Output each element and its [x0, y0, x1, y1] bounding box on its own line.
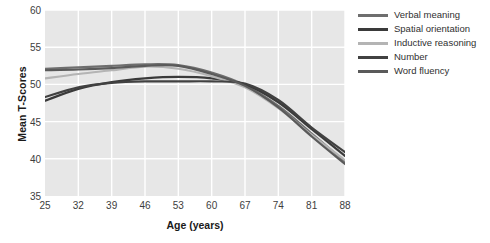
legend-color-swatch	[358, 14, 388, 17]
legend-item-label: Spatial orientation	[394, 22, 470, 36]
y-tick-label: 45	[1, 116, 41, 127]
legend-color-swatch	[358, 28, 388, 31]
legend-item[interactable]: Inductive reasoning	[358, 36, 490, 50]
series-line	[45, 81, 345, 152]
y-tick-label: 55	[1, 42, 41, 53]
x-tick-label: 88	[325, 200, 365, 211]
legend-item[interactable]: Number	[358, 50, 490, 64]
y-tick-label: 60	[1, 5, 41, 16]
legend-item[interactable]: Word fluency	[358, 64, 490, 78]
legend-item-label: Verbal meaning	[394, 8, 460, 22]
series-line	[45, 64, 345, 162]
series-line	[45, 65, 345, 164]
legend-item-label: Number	[394, 50, 428, 64]
y-tick-label: 50	[1, 79, 41, 90]
chart-legend: Verbal meaningSpatial orientationInducti…	[358, 8, 490, 78]
legend-item-label: Word fluency	[394, 64, 449, 78]
plot-area	[45, 10, 345, 196]
series-lines	[45, 10, 345, 196]
chart-root: Mean T-Scores 354045505560 2532394653606…	[0, 0, 490, 243]
x-axis-ticks: 25323946536067748188	[45, 200, 345, 216]
legend-item-label: Inductive reasoning	[394, 36, 476, 50]
legend-color-swatch	[358, 70, 388, 73]
legend-color-swatch	[358, 42, 388, 45]
x-axis-title: Age (years)	[45, 219, 345, 231]
y-tick-label: 40	[1, 153, 41, 164]
y-axis-ticks: 354045505560	[0, 10, 41, 196]
legend-item[interactable]: Verbal meaning	[358, 8, 490, 22]
legend-color-swatch	[358, 56, 388, 59]
legend-item[interactable]: Spatial orientation	[358, 22, 490, 36]
